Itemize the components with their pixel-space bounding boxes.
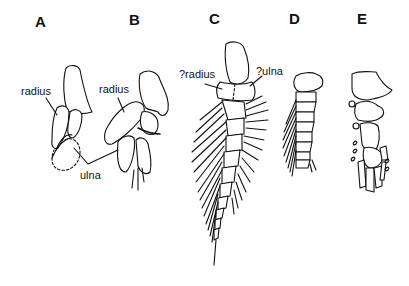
- limb-b-drawing: [105, 71, 169, 190]
- ulna-pointer-lines: [74, 148, 118, 164]
- limb-c-drawing: [192, 42, 268, 265]
- limb-a-drawing: [46, 66, 92, 171]
- limb-d-drawing: [283, 73, 323, 176]
- limb-drawings: [0, 0, 409, 286]
- limb-skeleton-figure: A B C D E radius radius ulna ?radius ?ul…: [0, 0, 409, 286]
- limb-e-drawing: [349, 72, 392, 193]
